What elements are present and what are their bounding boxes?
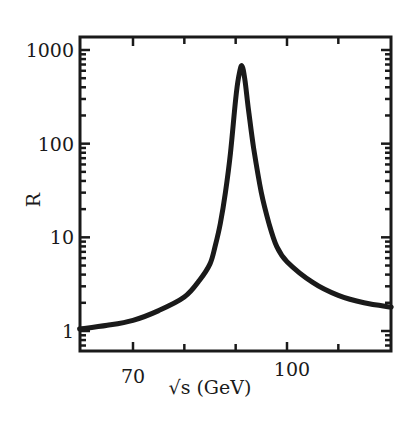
y-tick-label: 100 (38, 133, 74, 155)
y-tick-label: 1000 (26, 39, 74, 61)
x-axis-label: √s (GeV) (169, 376, 252, 398)
y-tick-label: 10 (50, 226, 74, 248)
y-tick-labels: 1101001000 (26, 39, 74, 342)
resonance-curve (80, 66, 392, 329)
y-tick-label: 1 (62, 320, 74, 342)
x-tick-label: 100 (274, 358, 310, 380)
y-axis-label: R (22, 192, 44, 207)
chart-figure: 1101001000 70100 R √s (GeV) (0, 0, 417, 422)
x-tick-label: 70 (121, 365, 145, 387)
